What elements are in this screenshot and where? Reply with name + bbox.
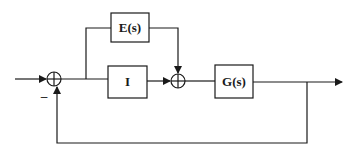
- block-diagram: E(s) I G(s) –: [0, 0, 354, 150]
- feedback-line: [57, 82, 307, 143]
- summing-junction-1: [47, 72, 61, 86]
- block-E-label: E(s): [119, 20, 141, 35]
- block-G-label: G(s): [222, 74, 246, 89]
- block-I-label: I: [125, 74, 130, 89]
- E-to-sum2-line: [149, 28, 178, 73]
- branch-to-E-line: [86, 28, 111, 79]
- summing-junction-2: [171, 74, 185, 88]
- minus-sign: –: [41, 90, 48, 104]
